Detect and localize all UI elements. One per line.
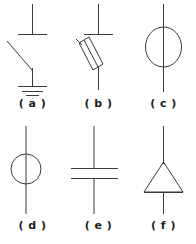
triangle-body	[144, 162, 183, 192]
symbol-e-caption: ( e )	[66, 220, 131, 232]
element-center-stripe-line	[84, 40, 98, 67]
symbol-f-caption: ( f )	[131, 220, 196, 232]
symbol-e-capacitor	[66, 124, 131, 218]
symbol-b-artwork	[66, 2, 131, 98]
switch-blade-line	[7, 41, 32, 70]
symbol-f-triangle-diode	[131, 124, 196, 218]
symbol-a-caption: ( a )	[0, 98, 65, 110]
symbol-a-artwork	[0, 2, 65, 98]
symbol-d-small-circle	[0, 124, 65, 218]
symbol-d-artwork	[0, 124, 65, 218]
symbol-c-artwork	[131, 2, 196, 98]
symbol-a-switch-with-ground	[0, 2, 65, 98]
symbol-e-artwork	[66, 124, 131, 218]
symbol-c-caption: ( c )	[131, 98, 196, 110]
symbol-b-fuse-varistor	[66, 2, 131, 98]
schematic-symbol-sheet: ( a ) ( b ) ( c )	[0, 0, 196, 244]
symbol-c-large-circle	[131, 2, 196, 98]
symbol-d-caption: ( d )	[0, 220, 65, 232]
symbol-b-caption: ( b )	[66, 98, 131, 110]
symbol-f-artwork	[131, 124, 196, 218]
